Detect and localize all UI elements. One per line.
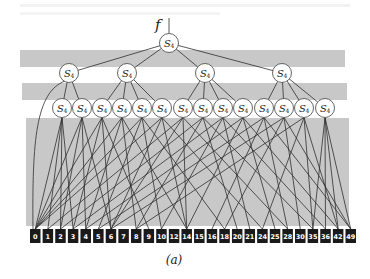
leaf-row: 0123456789101214151618202124252830353642… bbox=[30, 229, 356, 243]
leaf-30: 30 bbox=[295, 229, 306, 243]
leaf-label: 6 bbox=[109, 233, 114, 241]
level3-node: S4 bbox=[174, 99, 193, 118]
leaf-label: 1 bbox=[46, 233, 51, 241]
node-subscript: 4 bbox=[71, 72, 75, 79]
level3-node: S4 bbox=[295, 99, 314, 118]
level2-node: S4 bbox=[60, 64, 79, 83]
level3-node: S4 bbox=[255, 99, 274, 118]
leaf-label: 4 bbox=[83, 233, 88, 241]
leaf-label: 49 bbox=[346, 233, 356, 241]
leaf-label: 7 bbox=[121, 233, 126, 241]
level2-node: S4 bbox=[196, 64, 215, 83]
leaf-label: 2 bbox=[58, 233, 63, 241]
leaf-16: 16 bbox=[207, 229, 218, 243]
leaf-35: 35 bbox=[308, 229, 319, 243]
leaf-label: 16 bbox=[207, 233, 217, 241]
leaf-6: 6 bbox=[106, 229, 117, 243]
leaf-label: 24 bbox=[258, 233, 268, 241]
leaf-label: 10 bbox=[157, 233, 167, 241]
leaf-28: 28 bbox=[282, 229, 293, 243]
leaf-label: 20 bbox=[233, 233, 243, 241]
leaf-label: 42 bbox=[334, 233, 343, 241]
leaf-label: 30 bbox=[296, 233, 306, 241]
figure-caption: (a) bbox=[166, 253, 183, 267]
edge bbox=[325, 118, 326, 230]
leaf-12: 12 bbox=[169, 229, 180, 243]
leaf-0: 0 bbox=[30, 229, 41, 243]
node-subscript: 4 bbox=[286, 107, 290, 114]
node-subscript: 4 bbox=[266, 107, 270, 114]
leaf-label: 14 bbox=[182, 233, 192, 241]
leaf-label: 15 bbox=[195, 233, 205, 241]
leaf-24: 24 bbox=[257, 229, 268, 243]
node-subscript: 4 bbox=[171, 42, 175, 49]
leaf-1: 1 bbox=[43, 229, 54, 243]
leaf-4: 4 bbox=[80, 229, 91, 243]
node-subscript: 4 bbox=[205, 107, 209, 114]
leaf-9: 9 bbox=[144, 229, 155, 243]
node-subscript: 4 bbox=[284, 72, 288, 79]
level3-node: S4 bbox=[93, 99, 112, 118]
leaf-label: 12 bbox=[170, 233, 179, 241]
leaf-42: 42 bbox=[333, 229, 344, 243]
leaf-49: 49 bbox=[346, 229, 357, 243]
level3-node: S4 bbox=[53, 99, 72, 118]
level3-node: S4 bbox=[214, 99, 233, 118]
faint-text-line bbox=[20, 4, 350, 7]
node-subscript: 4 bbox=[144, 107, 148, 114]
node-subscript: 4 bbox=[124, 107, 128, 114]
nodes: S4S4S4S4S4S4S4S4S4S4S4S4S4S4S4S4S4S4S4 bbox=[53, 34, 335, 118]
leaf-3: 3 bbox=[68, 229, 79, 243]
band-level-2 bbox=[22, 83, 347, 100]
faint-text-line bbox=[20, 12, 220, 15]
level3-node: S4 bbox=[234, 99, 253, 118]
level3-node: S4 bbox=[133, 99, 152, 118]
node-subscript: 4 bbox=[306, 107, 310, 114]
node-subscript: 4 bbox=[207, 72, 211, 79]
node-subscript: 4 bbox=[225, 107, 229, 114]
node-subscript: 4 bbox=[64, 107, 68, 114]
leaf-36: 36 bbox=[320, 229, 331, 243]
leaf-label: 0 bbox=[33, 233, 38, 241]
leaf-label: 5 bbox=[96, 233, 101, 241]
leaf-8: 8 bbox=[131, 229, 142, 243]
level3-node: S4 bbox=[316, 99, 335, 118]
leaf-25: 25 bbox=[270, 229, 281, 243]
leaf-2: 2 bbox=[55, 229, 66, 243]
leaf-5: 5 bbox=[93, 229, 104, 243]
leaf-20: 20 bbox=[232, 229, 243, 243]
leaf-label: 18 bbox=[220, 233, 230, 241]
leaf-label: 9 bbox=[147, 233, 152, 241]
leaf-label: 8 bbox=[134, 233, 139, 241]
node-subscript: 4 bbox=[245, 107, 249, 114]
level3-node: S4 bbox=[113, 99, 132, 118]
leaf-21: 21 bbox=[245, 229, 256, 243]
level3-node: S4 bbox=[73, 99, 92, 118]
leaf-label: 21 bbox=[245, 233, 255, 241]
leaf-14: 14 bbox=[181, 229, 192, 243]
level3-node: S4 bbox=[153, 99, 172, 118]
level3-node: S4 bbox=[275, 99, 294, 118]
leaf-label: 28 bbox=[283, 233, 293, 241]
leaf-label: 36 bbox=[321, 233, 331, 241]
leaf-15: 15 bbox=[194, 229, 205, 243]
tree-diagram: S4S4S4S4S4S4S4S4S4S4S4S4S4S4S4S4S4S4S4 0… bbox=[0, 0, 370, 279]
input-label-f: f bbox=[154, 16, 163, 34]
node-subscript: 4 bbox=[129, 72, 133, 79]
leaf-label: 35 bbox=[308, 233, 318, 241]
leaf-7: 7 bbox=[118, 229, 129, 243]
root-node: S4 bbox=[160, 34, 179, 53]
leaf-18: 18 bbox=[219, 229, 230, 243]
node-subscript: 4 bbox=[185, 107, 189, 114]
leaf-10: 10 bbox=[156, 229, 167, 243]
node-subscript: 4 bbox=[84, 107, 88, 114]
level2-node: S4 bbox=[118, 64, 137, 83]
band-level-3 bbox=[26, 118, 349, 226]
leaf-label: 3 bbox=[71, 233, 76, 241]
level3-node: S4 bbox=[194, 99, 213, 118]
node-subscript: 4 bbox=[104, 107, 108, 114]
node-subscript: 4 bbox=[327, 107, 331, 114]
level2-node: S4 bbox=[273, 64, 292, 83]
node-subscript: 4 bbox=[164, 107, 168, 114]
leaf-label: 25 bbox=[271, 233, 281, 241]
